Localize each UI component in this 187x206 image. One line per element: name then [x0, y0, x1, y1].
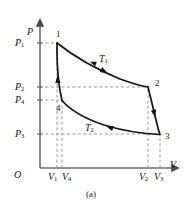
x-axis-label: V	[170, 160, 176, 170]
arrow-isotherm-T2	[105, 124, 114, 131]
y-tick-P1-sub: 1	[21, 41, 24, 48]
curve-T1-sub: 1	[105, 57, 108, 64]
state-point-2: 2	[155, 79, 160, 88]
origin-label: O	[14, 170, 21, 180]
x-tick-label-V4: V4	[62, 172, 71, 183]
figure-caption: (a)	[86, 190, 96, 199]
axis-lines	[40, 26, 172, 168]
curve-label-T2: T2	[85, 123, 94, 134]
state-point-3: 3	[165, 132, 170, 141]
isotherm-T1-curve	[57, 43, 148, 87]
y-tick-P3-sub: 3	[21, 132, 24, 139]
x-tick-V1-sub: 1	[54, 175, 57, 182]
arrow-adiabat-4-1	[55, 76, 61, 84]
y-tick-label-P3: P3	[15, 129, 24, 140]
state-point-4: 4	[56, 104, 61, 113]
curve-label-T1: T1	[99, 54, 108, 65]
y-tick-label-P2: P2	[15, 82, 24, 93]
x-tick-V3-sub: 3	[160, 175, 163, 182]
x-tick-label-V3: V3	[154, 172, 163, 183]
x-tick-V2-sub: 2	[145, 175, 148, 182]
y-tick-P2-sub: 2	[21, 85, 24, 92]
x-tick-label-V1: V1	[48, 172, 57, 183]
y-tick-P4-sub: 4	[21, 98, 24, 105]
y-tick-label-P1: P1	[15, 38, 24, 49]
adiabat-4-1-curve	[57, 43, 62, 101]
x-tick-label-V2: V2	[139, 172, 148, 183]
figure-container: P V O P1 P2 P4 P3 V1 V4 V2 V3 T1 T2 1 2 …	[0, 0, 187, 206]
x-tick-V4-sub: 4	[68, 175, 71, 182]
y-axis-label: P	[27, 27, 33, 37]
direction-arrows	[55, 60, 158, 132]
y-tick-label-P4: P4	[15, 95, 24, 106]
cycle-path	[57, 43, 160, 135]
state-point-1: 1	[56, 30, 61, 39]
curve-T2-sub: 2	[91, 126, 94, 133]
